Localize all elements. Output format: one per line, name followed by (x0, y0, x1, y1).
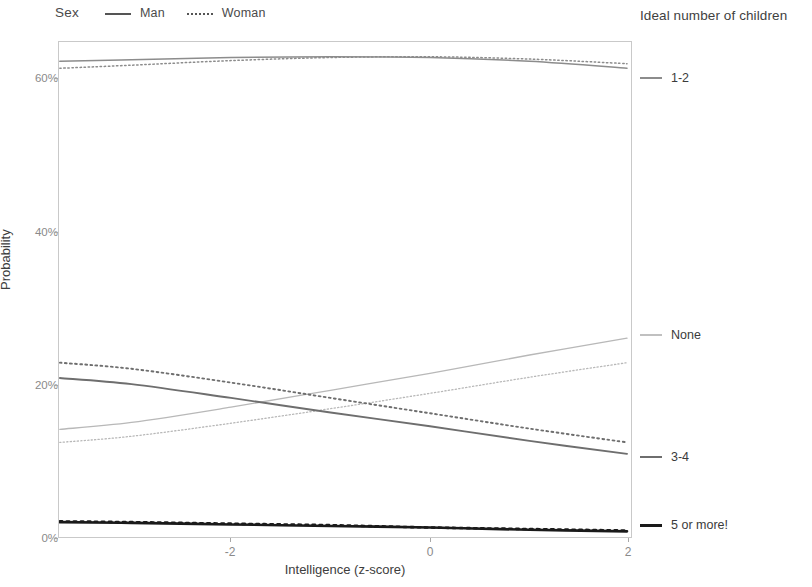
line-key-icon-1-2 (640, 77, 662, 79)
sex-legend-item-man: Man (105, 6, 165, 20)
series-line-1-2-man (60, 57, 627, 69)
sex-legend-label-woman: Woman (222, 6, 266, 20)
plot-area (59, 42, 633, 539)
series-label-text-3-4: 3-4 (671, 450, 689, 464)
dotted-line-key-icon (187, 7, 213, 19)
y-tick-mark-0 (54, 538, 58, 539)
y-axis: 60% 40% 20% 0% (0, 0, 58, 587)
series-label-5-or-more: 5 or more! (640, 518, 728, 532)
line-key-icon-5-or-more (640, 524, 662, 527)
y-tick-label-0: 0% (18, 532, 58, 544)
series-label-none: None (640, 328, 701, 342)
plot-panel (58, 41, 632, 538)
line-key-icon-3-4 (640, 456, 662, 458)
series-line-none-man (60, 338, 627, 429)
x-tick-label-2: 2 (625, 545, 632, 559)
chart-root: Sex Man Woman Ideal number of children 1… (0, 0, 812, 587)
y-tick-label-40: 40% (18, 226, 58, 238)
line-key-icon-none (640, 334, 662, 336)
series-line-3-4-man (60, 378, 627, 454)
sex-legend-label-man: Man (140, 6, 165, 20)
series-line-3-4-woman (60, 363, 627, 443)
y-axis-title: Probability (0, 229, 13, 290)
x-tick-label-0: 0 (427, 545, 434, 559)
series-label-text-1-2: 1-2 (671, 71, 689, 85)
sex-legend-item-woman: Woman (187, 6, 266, 20)
x-tick-label-minus2: -2 (225, 545, 236, 559)
sex-legend-title: Sex (55, 5, 79, 20)
y-tick-label-60: 60% (18, 72, 58, 84)
series-label-1-2: 1-2 (640, 71, 689, 85)
sex-legend: Sex Man Woman (55, 5, 288, 20)
ideal-children-legend-title: Ideal number of children (640, 8, 787, 23)
solid-line-key-icon (105, 7, 131, 19)
series-label-text-5-or-more: 5 or more! (671, 518, 728, 532)
x-axis-title: Intelligence (z-score) (285, 562, 406, 577)
series-label-text-none: None (671, 328, 701, 342)
series-label-3-4: 3-4 (640, 450, 689, 464)
y-tick-label-20: 20% (18, 379, 58, 391)
